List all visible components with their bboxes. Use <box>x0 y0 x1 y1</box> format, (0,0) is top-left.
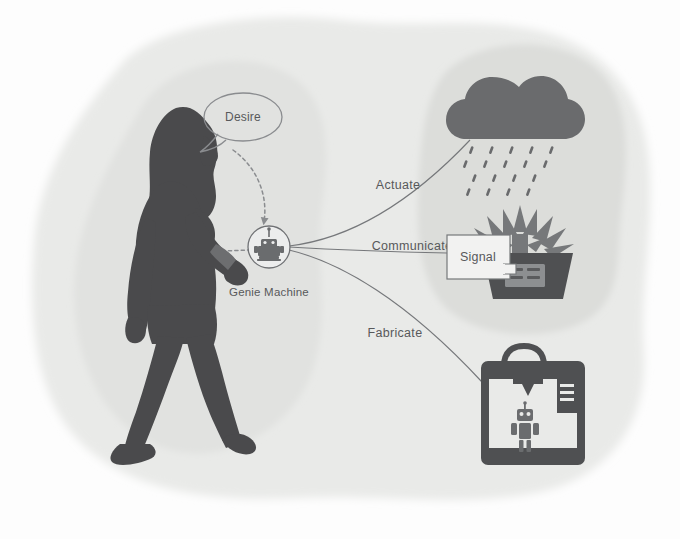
diagram-canvas: Desire Genie Machine Actuate Communicate… <box>0 0 680 539</box>
signal-callout: Signal <box>447 235 516 279</box>
signal-label: Signal <box>460 250 496 264</box>
branch-label-fabricate: Fabricate <box>368 326 423 340</box>
branch-label-actuate: Actuate <box>376 178 421 192</box>
genie-machine-label: Genie Machine <box>229 286 309 298</box>
speech-bubble-label: Desire <box>225 110 261 124</box>
branch-label-communicate: Communicate <box>372 239 452 253</box>
